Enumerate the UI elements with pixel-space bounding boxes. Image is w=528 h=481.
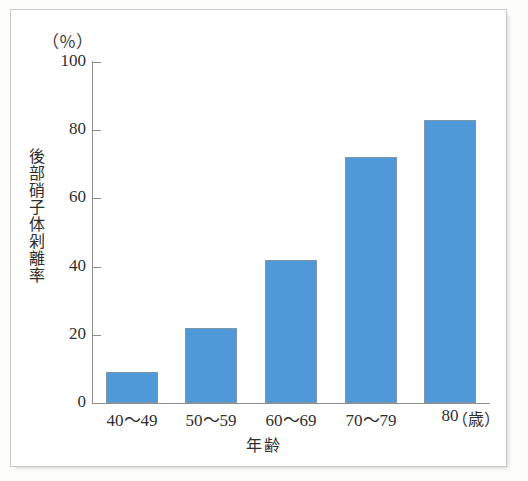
x-axis-tick-label: 70～79 <box>326 406 416 431</box>
y-axis-tick-label: 0 <box>40 392 86 412</box>
x-axis-tick-label: 50～59 <box>166 406 256 431</box>
y-axis-tick <box>93 198 101 199</box>
y-axis-tick-label: 100 <box>40 51 86 71</box>
y-axis-tick <box>93 403 101 404</box>
y-axis-tick <box>93 335 101 336</box>
x-axis-line <box>92 403 490 404</box>
x-axis-tick-label: 40～49 <box>87 406 177 431</box>
bar <box>265 260 317 403</box>
bar <box>345 157 397 403</box>
y-axis-unit-label: （％） <box>42 28 93 53</box>
y-axis-tick-label: 60 <box>40 187 86 207</box>
bar <box>185 328 237 403</box>
y-axis-line <box>92 61 93 404</box>
y-axis-tick-label: 40 <box>40 256 86 276</box>
bar <box>424 120 476 403</box>
y-axis-tick-label: 20 <box>40 324 86 344</box>
x-axis-title: 年齢 <box>0 432 528 456</box>
y-axis-tick <box>93 130 101 131</box>
y-axis-tick <box>93 62 101 63</box>
chart-page: （％） 後部硝子体剁離率 100806040200 40～4950～5960～6… <box>0 0 528 481</box>
y-axis-tick <box>93 267 101 268</box>
bar <box>106 372 158 403</box>
x-axis-unit-label: （歳） <box>452 406 500 430</box>
y-axis-tick-label: 80 <box>40 119 86 139</box>
x-axis-tick-label: 60～69 <box>246 406 336 431</box>
